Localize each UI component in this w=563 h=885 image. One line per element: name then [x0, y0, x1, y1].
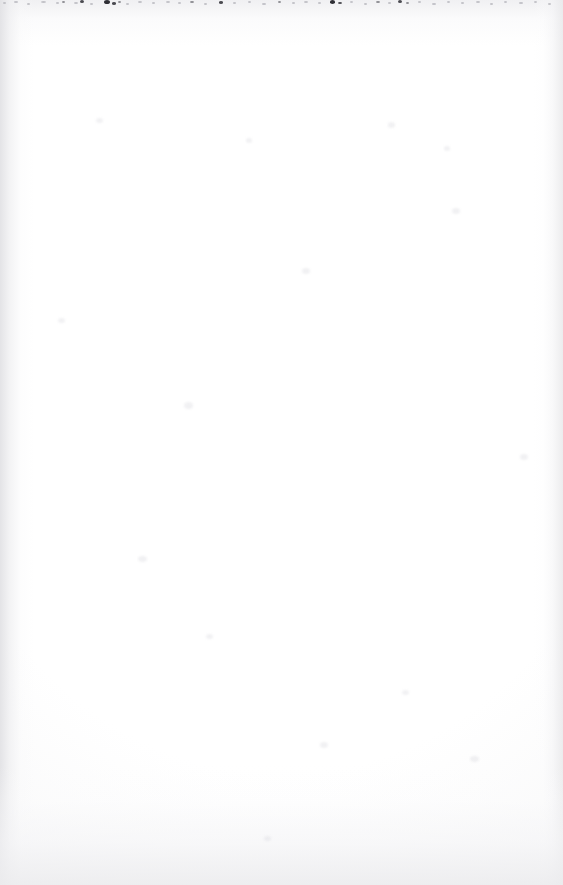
- scanned-page: [0, 0, 563, 885]
- paper-surface: [0, 0, 563, 885]
